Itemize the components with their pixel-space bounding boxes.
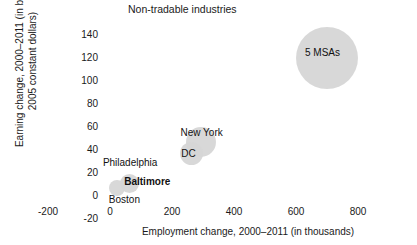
y-tick-label: 20 — [64, 168, 98, 178]
y-tick-label: 40 — [64, 145, 98, 155]
y-tick-label: 100 — [64, 76, 98, 86]
data-point-label: DC — [181, 149, 195, 159]
data-point-label: Philadelphia — [103, 158, 158, 168]
y-tick-label: 0 — [64, 191, 98, 201]
x-tick-label: 600 — [276, 207, 316, 217]
data-point-label: 5 MSAs — [305, 48, 340, 58]
data-point-label: New York — [181, 128, 223, 138]
y-tick-label: 80 — [64, 99, 98, 109]
scatter-chart: Non-tradable industries Earning change, … — [0, 0, 417, 245]
x-tick-label: 800 — [338, 207, 378, 217]
x-tick-label: -200 — [28, 207, 68, 217]
data-bubble[interactable] — [296, 27, 358, 89]
x-tick-label: 200 — [152, 207, 192, 217]
y-tick-label: 140 — [64, 30, 98, 40]
y-tick-label: 120 — [64, 53, 98, 63]
data-point-label: Boston — [109, 195, 140, 205]
data-point-label: Baltimore — [124, 177, 170, 187]
y-tick-label: 60 — [64, 122, 98, 132]
x-tick-label: 400 — [214, 207, 254, 217]
x-tick-label: 0 — [90, 207, 130, 217]
